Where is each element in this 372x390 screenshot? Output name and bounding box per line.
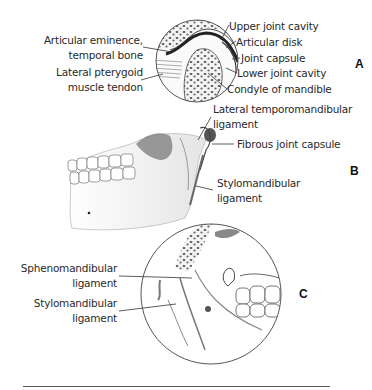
label-condyle-of-mandible: Condyle of mandible [227, 82, 332, 97]
label-line: muscle tendon [56, 80, 143, 95]
label-line: Stylomandibular [217, 176, 300, 191]
label-lateral-pterygoid-tendon: Lateral pterygoid muscle tendon [56, 65, 143, 95]
label-line: Stylomandibular [34, 296, 117, 311]
label-line: temporal bone [44, 48, 143, 63]
label-articular-disk: Articular disk [236, 35, 302, 50]
label-line: Lateral temporomandibular [213, 102, 352, 117]
panel-letter-b: B [350, 164, 359, 178]
panel-letter-c: C [299, 287, 308, 301]
label-sphenomandibular-ligament: Sphenomandibular ligament [21, 261, 117, 291]
label-lateral-temporomandibular-ligament: Lateral temporomandibular ligament [213, 102, 352, 132]
panel-letter-a: A [355, 57, 364, 71]
label-articular-eminence: Articular eminence, temporal bone [44, 33, 143, 63]
label-stylomandibular-ligament-c: Stylomandibular ligament [34, 296, 117, 326]
label-line: Sphenomandibular [21, 261, 117, 276]
mental-foramen [88, 212, 91, 215]
label-line: ligament [213, 117, 352, 132]
label-upper-joint-cavity: Upper joint cavity [229, 19, 319, 34]
label-fibrous-joint-capsule: Fibrous joint capsule [237, 137, 340, 152]
bottom-divider [23, 386, 330, 387]
label-line: Lateral pterygoid [56, 65, 143, 80]
panel-b-mandible-view [68, 127, 216, 230]
label-line: Articular eminence, [44, 33, 143, 48]
label-line: ligament [34, 311, 117, 326]
label-lower-joint-cavity: Lower joint cavity [237, 66, 326, 81]
label-line: ligament [217, 191, 300, 206]
label-line: ligament [21, 276, 117, 291]
label-stylomandibular-ligament-b: Stylomandibular ligament [217, 176, 300, 206]
label-joint-capsule: Joint capsule [241, 51, 305, 66]
